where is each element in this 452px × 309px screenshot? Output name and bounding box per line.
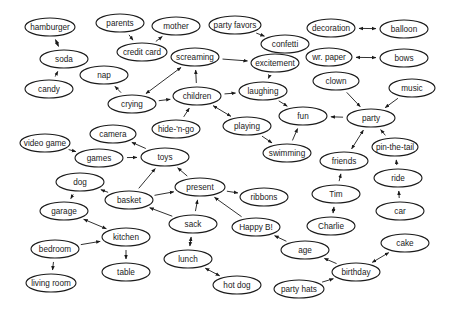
- edge-toys-to-camera: [132, 142, 146, 148]
- node-label: Tim: [329, 190, 343, 199]
- node-cake: cake: [381, 234, 429, 252]
- node-excitement: excitement: [251, 54, 299, 72]
- node-nap: nap: [80, 66, 128, 84]
- edge-crying-to-nap: [115, 86, 121, 92]
- arrow-line: [53, 262, 54, 270]
- node-hamburger: hamburger: [25, 18, 75, 36]
- arrow-line: [292, 129, 297, 141]
- node-label: friends: [332, 157, 357, 166]
- edge-sack-to-present: [195, 200, 197, 211]
- node-toys: toys: [141, 148, 189, 166]
- node-label: children: [183, 92, 212, 101]
- node-label: sack: [185, 220, 203, 229]
- node-wr-paper: wr. paper: [306, 48, 352, 66]
- node-sack: sack: [169, 215, 217, 233]
- arrow-line: [205, 268, 219, 276]
- arrow-line: [372, 253, 388, 263]
- edge-crying-to-screaming: [146, 67, 181, 93]
- node-label: laughing: [248, 87, 279, 96]
- node-label: ride: [391, 174, 405, 183]
- node-label: dog: [73, 178, 87, 187]
- node-label: Charlie: [318, 222, 344, 231]
- edge-parents-to-credit_card: [129, 35, 133, 40]
- node-video-game: video game: [20, 134, 70, 152]
- node-label: garage: [51, 207, 77, 216]
- node-hide-n-go: hide-'n-go: [152, 120, 200, 138]
- edge-pin_the_tail-to-party: [381, 130, 386, 136]
- node-label: bows: [394, 54, 413, 63]
- edge-friends-to-party: [352, 130, 364, 149]
- edge-tim-to-friends: [339, 174, 341, 181]
- arrow-line: [213, 106, 231, 117]
- edge-laughing-to-fun: [279, 101, 288, 106]
- node-label: present: [186, 183, 214, 192]
- concept-map-canvas: hamburgerparentsmotherparty favorsdecora…: [0, 0, 452, 309]
- edge-candy-to-soda: [55, 71, 58, 76]
- concept-map-diagram: hamburgerparentsmotherparty favorsdecora…: [0, 0, 452, 309]
- edge-party_favors-to-confetti: [256, 33, 264, 36]
- node-label: Happy B!: [239, 223, 273, 232]
- node-label: hamburger: [30, 23, 70, 32]
- node-label: kitchen: [113, 233, 139, 242]
- node-label: party: [362, 114, 381, 123]
- node-label: parents: [106, 19, 133, 28]
- node-decoration: decoration: [307, 19, 355, 37]
- arrow-line: [81, 241, 100, 244]
- arrow-line: [84, 219, 107, 228]
- arrow-line: [190, 237, 191, 246]
- edge-lunch-to-hot_dog: [205, 268, 219, 276]
- edge-basket-to-toys: [139, 169, 155, 189]
- arrow-line: [322, 279, 333, 282]
- edge-present-to-ribbons: [227, 191, 238, 193]
- node-hot-dog: hot dog: [213, 276, 261, 294]
- arrow-line: [262, 136, 272, 143]
- node-lunch: lunch: [164, 250, 212, 268]
- node-label: camera: [99, 130, 127, 139]
- arrow-line: [225, 93, 236, 94]
- edge-birthday-to-age: [324, 258, 336, 263]
- node-music: music: [389, 79, 435, 97]
- edge-crying-to-children: [159, 99, 170, 100]
- node-label: bedroom: [39, 245, 71, 254]
- node-credit-card: credit card: [117, 43, 167, 61]
- edge-sack-to-basket: [150, 208, 173, 216]
- node-label: wr. paper: [311, 53, 346, 62]
- node-children: children: [173, 87, 221, 105]
- node-label: age: [298, 246, 312, 255]
- node-label: mother: [163, 22, 189, 31]
- node-swimming: swimming: [263, 144, 311, 162]
- arrow-line: [268, 76, 269, 79]
- edge-party_hats-to-birthday: [322, 279, 333, 282]
- arrow-line: [159, 99, 170, 100]
- node-label: toys: [157, 153, 172, 162]
- node-label: swimming: [269, 149, 306, 158]
- edge-swimming-to-fun: [292, 129, 297, 141]
- arrow-line: [275, 236, 287, 242]
- node-present: present: [175, 178, 225, 196]
- edge-video_game-to-games: [69, 150, 76, 152]
- arrow-line: [352, 130, 364, 149]
- node-parents: parents: [96, 14, 144, 32]
- edge-music-to-party: [385, 98, 398, 107]
- node-label: clown: [326, 77, 347, 86]
- node-confetti: confetti: [261, 35, 309, 53]
- edge-children-to-playing: [213, 106, 231, 117]
- arrow-line: [385, 98, 398, 107]
- node-friends: friends: [320, 152, 368, 170]
- edge-basket-to-present: [155, 192, 174, 196]
- node-car: car: [376, 202, 424, 220]
- edge-clown-to-party: [347, 92, 360, 106]
- node-games: games: [75, 149, 123, 167]
- node-label: party hats: [281, 285, 317, 294]
- node-age: age: [281, 241, 329, 259]
- node-bows: bows: [380, 49, 428, 67]
- node-label: cake: [396, 239, 414, 248]
- node-ride: ride: [374, 169, 422, 187]
- node-pin-the-tail: pin-the-tail: [372, 138, 418, 156]
- node-label: crying: [121, 100, 143, 109]
- node-label: nap: [97, 71, 111, 80]
- arrow-line: [195, 200, 197, 211]
- arrow-line: [55, 40, 58, 47]
- node-label: video game: [24, 139, 67, 148]
- node-label: excitement: [255, 59, 295, 68]
